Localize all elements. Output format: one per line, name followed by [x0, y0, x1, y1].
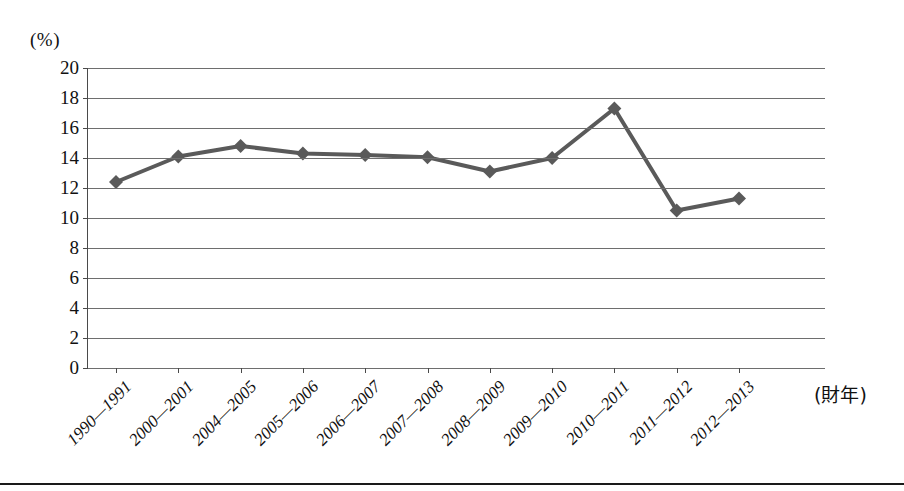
- x-tick-label: 2012—2013: [686, 377, 759, 450]
- x-tick-label: 2009—2010: [499, 377, 572, 450]
- y-tick-mark: [83, 188, 88, 189]
- y-tick-mark: [83, 338, 88, 339]
- y-tick-mark: [83, 248, 88, 249]
- x-tick-label: 2004—2005: [188, 377, 261, 450]
- x-tick-label: 2008—2009: [437, 377, 510, 450]
- y-tick-mark: [83, 158, 88, 159]
- x-tick-mark: [739, 368, 740, 373]
- y-tick-label: 20: [60, 57, 79, 79]
- y-gridline: [88, 98, 825, 99]
- x-tick-label: 1990—1991: [63, 377, 136, 450]
- y-gridline: [88, 128, 825, 129]
- y-tick-label: 14: [60, 147, 79, 169]
- x-tick-mark: [365, 368, 366, 373]
- y-tick-label: 16: [60, 117, 79, 139]
- x-tick-mark: [552, 368, 553, 373]
- x-tick-mark: [303, 368, 304, 373]
- x-tick-label: 2006—2007: [312, 377, 385, 450]
- y-tick-mark: [83, 218, 88, 219]
- x-tick-label: 2007—2008: [375, 377, 448, 450]
- y-tick-label: 18: [60, 87, 79, 109]
- y-gridline: [88, 218, 825, 219]
- y-axis-unit-label: (%): [30, 29, 60, 51]
- x-tick-label: 2011—2012: [625, 377, 697, 449]
- y-tick-mark: [83, 278, 88, 279]
- y-tick-mark: [83, 308, 88, 309]
- x-tick-mark: [490, 368, 491, 373]
- y-gridline: [88, 308, 825, 309]
- y-tick-label: 12: [60, 177, 79, 199]
- y-tick-label: 8: [70, 237, 80, 259]
- y-gridline: [88, 278, 825, 279]
- data-point-marker: [234, 139, 248, 153]
- y-gridline: [88, 368, 825, 369]
- x-tick-mark: [428, 368, 429, 373]
- y-tick-mark: [83, 98, 88, 99]
- data-point-marker: [483, 165, 497, 179]
- x-tick-label: 2005—2006: [250, 377, 323, 450]
- y-gridline: [88, 68, 825, 69]
- y-gridline: [88, 338, 825, 339]
- x-tick-mark: [241, 368, 242, 373]
- plot-area: 201816141210864201990—19912000—20012004—…: [88, 68, 825, 368]
- data-point-marker: [171, 150, 185, 164]
- x-tick-label: 2010—2011: [563, 377, 635, 449]
- y-tick-label: 10: [60, 207, 79, 229]
- data-point-marker: [732, 192, 746, 206]
- y-tick-mark: [83, 128, 88, 129]
- y-gridline: [88, 188, 825, 189]
- y-gridline: [88, 248, 825, 249]
- x-tick-mark: [614, 368, 615, 373]
- data-point-marker: [358, 148, 372, 162]
- y-tick-label: 2: [70, 327, 80, 349]
- x-tick-label: 2000—2001: [126, 377, 199, 450]
- x-axis-title: (財年): [814, 380, 867, 407]
- y-tick-label: 0: [70, 357, 80, 379]
- y-tick-mark: [83, 368, 88, 369]
- x-tick-mark: [677, 368, 678, 373]
- y-gridline: [88, 158, 825, 159]
- x-tick-mark: [116, 368, 117, 373]
- y-tick-label: 6: [70, 267, 80, 289]
- page-bottom-rule: [0, 483, 904, 485]
- data-point-marker: [109, 175, 123, 189]
- y-tick-label: 4: [70, 297, 80, 319]
- x-tick-mark: [178, 368, 179, 373]
- chart-figure: (%) 201816141210864201990—19912000—20012…: [0, 0, 904, 491]
- y-tick-mark: [83, 68, 88, 69]
